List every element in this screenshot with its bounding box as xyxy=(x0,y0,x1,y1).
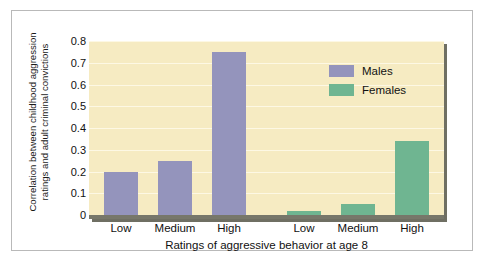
y-axis-tick-label: 0.1 xyxy=(56,187,86,199)
x-axis-category-labels: LowMediumHighLowMediumHigh xyxy=(89,222,444,238)
y-axis-tick-label: 0.2 xyxy=(56,166,86,178)
gridline xyxy=(89,41,444,42)
legend-item-males: Males xyxy=(329,61,439,80)
x-axis-tick-label: Low xyxy=(110,222,131,234)
x-axis-tick-label: Medium xyxy=(338,222,379,234)
gridline xyxy=(89,193,444,194)
y-axis-tick-label: 0.6 xyxy=(56,79,86,91)
x-axis-baseline xyxy=(89,215,444,219)
gridline xyxy=(89,172,444,173)
y-axis-tick-label: 0.8 xyxy=(56,35,86,47)
y-axis-tick-label: 0 xyxy=(56,209,86,221)
chart-figure-frame: Correlation between childhood aggression… xyxy=(11,10,473,251)
legend-label-males: Males xyxy=(362,65,393,77)
legend-swatch-females-icon xyxy=(329,84,354,96)
y-axis-tick-label: 0.3 xyxy=(56,144,86,156)
legend-label-females: Females xyxy=(362,84,406,96)
bar-females-high xyxy=(395,141,429,215)
y-axis-tick-label: 0.5 xyxy=(56,100,86,112)
x-axis-tick-label: High xyxy=(217,222,241,234)
y-axis-title-line2: ratings and adult criminal convictions xyxy=(39,44,51,201)
y-axis-tick-label: 0.7 xyxy=(56,57,86,69)
y-axis-title: Correlation between childhood aggression… xyxy=(24,34,54,210)
gridline xyxy=(89,128,444,129)
chart-legend: Males Females xyxy=(329,61,439,99)
gridline xyxy=(89,106,444,107)
legend-item-females: Females xyxy=(329,80,439,99)
bar-females-medium xyxy=(341,204,375,215)
y-axis-title-line1: Correlation between childhood aggression xyxy=(27,32,39,211)
x-axis-title: Ratings of aggressive behavior at age 8 xyxy=(89,239,444,251)
gridline xyxy=(89,150,444,151)
x-axis-tick-label: Low xyxy=(293,222,314,234)
bar-males-high xyxy=(212,52,246,215)
y-axis-tick-labels: 0.80.70.60.50.40.30.20.10 xyxy=(56,41,86,219)
x-axis-tick-label: Medium xyxy=(155,222,196,234)
x-axis-tick-label: High xyxy=(400,222,424,234)
plot-area: Males Females xyxy=(89,41,444,219)
bar-males-medium xyxy=(158,161,192,215)
bar-males-low xyxy=(104,172,138,216)
legend-swatch-males-icon xyxy=(329,65,354,77)
y-axis-tick-label: 0.4 xyxy=(56,122,86,134)
